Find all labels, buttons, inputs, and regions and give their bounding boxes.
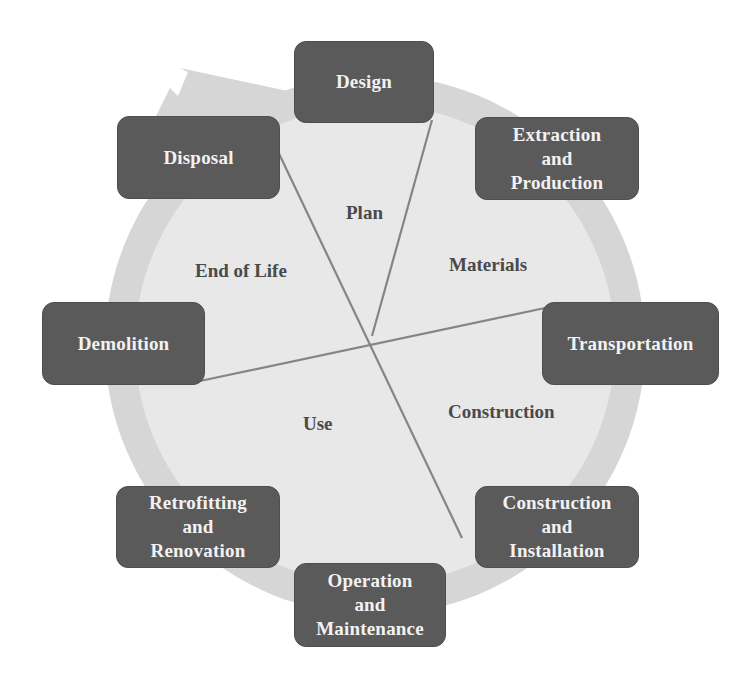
stage-design-label: Design <box>336 70 392 94</box>
phase-label-plan: Plan <box>346 202 383 224</box>
stage-demolition[interactable]: Demolition <box>42 302 205 385</box>
stage-transportation-label: Transportation <box>568 332 694 356</box>
stage-retrofitting-label-line3: Renovation <box>151 539 246 563</box>
stage-extraction-label-line2: and <box>541 147 572 171</box>
stage-retrofitting-label-line2: and <box>182 515 213 539</box>
stage-operation-and-maintenance[interactable]: Operation and Maintenance <box>294 563 446 647</box>
stage-operation-label-line3: Maintenance <box>316 617 424 641</box>
stage-retrofitting-and-renovation[interactable]: Retrofitting and Renovation <box>116 486 280 568</box>
stage-retrofitting-label-line1: Retrofitting <box>149 491 247 515</box>
stage-construction-and-installation[interactable]: Construction and Installation <box>475 486 639 568</box>
stage-construction-label-line2: and <box>541 515 572 539</box>
stage-extraction-label-line3: Production <box>511 171 603 195</box>
stage-construction-label-line3: Installation <box>509 539 604 563</box>
stage-extraction-and-production[interactable]: Extraction and Production <box>475 117 639 200</box>
phase-label-construction: Construction <box>448 401 555 423</box>
stage-construction-label-line1: Construction <box>502 491 611 515</box>
stage-operation-label-line1: Operation <box>327 569 412 593</box>
phase-label-end-of-life: End of Life <box>195 260 287 282</box>
stage-design[interactable]: Design <box>294 41 434 123</box>
phase-label-materials: Materials <box>449 254 527 276</box>
stage-operation-label-line2: and <box>354 593 385 617</box>
stage-disposal[interactable]: Disposal <box>117 116 280 199</box>
stage-transportation[interactable]: Transportation <box>542 302 719 385</box>
phase-label-use: Use <box>303 413 333 435</box>
stage-demolition-label: Demolition <box>78 332 170 356</box>
stage-disposal-label: Disposal <box>163 146 233 170</box>
stage-extraction-label-line1: Extraction <box>513 123 602 147</box>
